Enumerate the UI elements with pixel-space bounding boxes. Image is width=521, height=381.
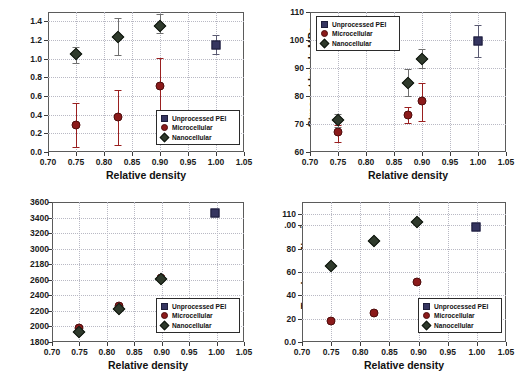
- x-axis-tick: [217, 342, 218, 346]
- diamond-marker-icon: [160, 133, 169, 142]
- error-bar-cap: [157, 33, 164, 34]
- x-axis-tick-label: 0.70: [302, 157, 319, 167]
- y-axis-title: Strain at break mm/mm: [0, 2, 26, 152]
- error-bar-cap: [115, 18, 122, 19]
- y-axis-tick: [44, 77, 48, 78]
- legend-item-label: Nanocellular: [172, 133, 212, 142]
- y-axis-tick: [306, 68, 310, 69]
- y-axis-tick-label: 80: [280, 244, 296, 254]
- data-point-microcellular[interactable]: [114, 113, 123, 122]
- y-axis-tick-label: 1.0: [26, 54, 42, 64]
- legend-item-microcellular[interactable]: Microcellular: [160, 123, 235, 132]
- chart-legend: Unprocessed PEIMicrocellularNanocellular: [316, 16, 400, 51]
- data-point-microcellular[interactable]: [369, 308, 378, 317]
- circle-marker-icon: [320, 29, 329, 38]
- x-axis-tick-label: 1.05: [236, 347, 253, 357]
- y-axis-tick: [298, 214, 302, 215]
- x-axis-tick-label: 0.95: [180, 157, 197, 167]
- circle-marker-icon: [160, 123, 169, 132]
- y-axis-tick: [44, 59, 48, 60]
- diamond-marker-icon: [422, 321, 431, 330]
- y-axis-title: Modulus of Elasticity, MPa: [0, 192, 30, 342]
- x-axis-tick: [450, 152, 451, 156]
- grid-line-vertical: [450, 12, 451, 152]
- y-axis-tick-label: 80: [288, 91, 304, 101]
- legend-item-unprocessed[interactable]: Unprocessed PEI: [422, 302, 497, 311]
- y-axis-tick-label: 0.4: [26, 110, 42, 120]
- grid-line-horizontal: [52, 233, 244, 234]
- legend-item-nanocellular[interactable]: Nanocellular: [320, 39, 395, 48]
- legend-item-microcellular[interactable]: Microcellular: [160, 311, 235, 320]
- data-point-microcellular[interactable]: [327, 317, 336, 326]
- square-marker-icon: [160, 302, 169, 311]
- data-point-microcellular[interactable]: [156, 81, 165, 90]
- x-axis-tick-label: 0.90: [410, 347, 427, 357]
- error-bar-cap: [475, 57, 482, 58]
- error-bar-cap: [157, 58, 164, 59]
- y-axis-tick-label: 60: [288, 147, 304, 157]
- x-axis-tick: [244, 342, 245, 346]
- error-bar-cap: [115, 145, 122, 146]
- error-bar-cap: [335, 127, 342, 128]
- y-axis-tick-label: 3400: [30, 213, 46, 223]
- error-bar-cap: [419, 83, 426, 84]
- legend-item-microcellular[interactable]: Microcellular: [422, 311, 497, 320]
- x-axis-tick: [448, 342, 449, 346]
- x-axis-tick: [48, 152, 49, 156]
- data-point-unprocessed[interactable]: [471, 222, 480, 231]
- error-bar-cap: [335, 142, 342, 143]
- error-bar-cap: [115, 90, 122, 91]
- grid-line-horizontal: [302, 249, 506, 250]
- square-marker-icon: [160, 114, 169, 123]
- y-axis-tick: [44, 40, 48, 41]
- data-point-unprocessed[interactable]: [212, 40, 221, 49]
- grid-line-horizontal: [52, 249, 244, 250]
- x-axis-tick: [389, 342, 390, 346]
- legend-item-unprocessed[interactable]: Unprocessed PEI: [320, 20, 395, 29]
- x-axis-tick-label: 0.95: [181, 347, 198, 357]
- x-axis-tick: [360, 342, 361, 346]
- legend-item-label: Microcellular: [172, 311, 213, 320]
- diamond-marker-icon: [160, 321, 169, 330]
- y-axis-tick: [44, 115, 48, 116]
- x-axis-tick-label: 0.90: [153, 347, 170, 357]
- x-axis-tick-label: 0.80: [96, 157, 113, 167]
- legend-item-unprocessed[interactable]: Unprocessed PEI: [160, 114, 235, 123]
- data-point-microcellular[interactable]: [404, 110, 413, 119]
- legend-item-label: Unprocessed PEI: [434, 302, 488, 311]
- y-axis-tick: [298, 319, 302, 320]
- grid-line-vertical: [107, 202, 108, 342]
- grid-line-horizontal: [52, 295, 244, 296]
- y-axis-tick-label: .00: [280, 220, 296, 230]
- x-axis-tick-label: 1.00: [208, 347, 225, 357]
- x-axis-title: Relative density: [302, 359, 506, 371]
- legend-item-nanocellular[interactable]: Nanocellular: [160, 321, 235, 330]
- y-axis-tick-label: 1800: [30, 337, 46, 347]
- y-axis-tick-label: 2200: [30, 306, 46, 316]
- x-axis-tick: [419, 342, 420, 346]
- data-point-microcellular[interactable]: [413, 277, 422, 286]
- legend-item-label: Microcellular: [172, 123, 213, 132]
- x-axis-tick: [331, 342, 332, 346]
- y-axis-tick: [44, 152, 48, 153]
- panel-modulus-of-elasticity: Modulus of Elasticity, MPa0.700.750.800.…: [0, 192, 258, 380]
- error-bar-cap: [213, 54, 220, 55]
- y-axis-tick-label: 110: [280, 209, 296, 219]
- y-axis-tick-label: 1.4: [26, 16, 42, 26]
- data-point-unprocessed[interactable]: [474, 36, 483, 45]
- legend-item-nanocellular[interactable]: Nanocellular: [422, 321, 497, 330]
- legend-item-nanocellular[interactable]: Nanocellular: [160, 133, 235, 142]
- legend-item-microcellular[interactable]: Microcellular: [320, 29, 395, 38]
- x-axis-tick-label: 1.00: [469, 347, 486, 357]
- data-point-microcellular[interactable]: [334, 128, 343, 137]
- x-axis-tick: [506, 152, 507, 156]
- data-point-microcellular[interactable]: [72, 120, 81, 129]
- data-point-unprocessed[interactable]: [211, 209, 220, 218]
- legend-item-unprocessed[interactable]: Unprocessed PEI: [160, 302, 235, 311]
- grid-line-vertical: [134, 202, 135, 342]
- x-axis-tick: [478, 152, 479, 156]
- y-axis-tick-label: 0.2: [26, 128, 42, 138]
- data-point-microcellular[interactable]: [418, 96, 427, 105]
- panel-strain-at-break: Strain at break mm/mm0.700.750.800.850.9…: [0, 2, 258, 190]
- y-axis-tick-label: 70: [288, 119, 304, 129]
